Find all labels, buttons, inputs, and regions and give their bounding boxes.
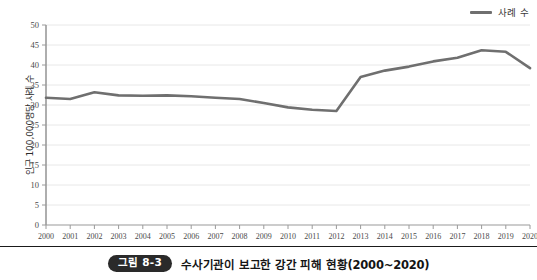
x-axis-tick-label: 2014 <box>377 232 393 241</box>
y-axis-tick-label: 40 <box>31 60 40 70</box>
chart-plot-area: 인구 100,000명당 사례 수 05101520253035404550 2… <box>0 0 537 246</box>
x-axis-tick-label: 2009 <box>256 232 272 241</box>
data-series-group <box>46 50 530 111</box>
y-axis-ticks-group: 05101520253035404550 <box>31 20 47 230</box>
x-axis-tick-label: 2013 <box>353 232 369 241</box>
line-chart-svg: 05101520253035404550 2000200120022003200… <box>0 0 537 246</box>
y-axis-tick-label: 15 <box>31 160 40 170</box>
x-axis-tick-label: 2006 <box>183 232 199 241</box>
y-axis-tick-label: 30 <box>31 100 40 110</box>
y-axis-tick-label: 50 <box>31 20 40 30</box>
data-line-사례 수 <box>46 50 530 111</box>
x-axis-tick-label: 2005 <box>159 232 175 241</box>
y-axis-tick-label: 35 <box>31 80 40 90</box>
figure-number-badge: 그림 8-3 <box>108 255 172 273</box>
x-axis-tick-label: 2020 <box>522 232 537 241</box>
y-axis-tick-label: 10 <box>31 180 40 190</box>
x-axis-tick-label: 2011 <box>304 232 320 241</box>
x-axis-tick-label: 2003 <box>111 232 127 241</box>
figure-caption-text: 수사기관이 보고한 강간 피해 현황(2000~2020) <box>181 256 429 272</box>
y-axis-tick-label: 20 <box>31 140 40 150</box>
x-axis-tick-label: 2007 <box>207 232 223 241</box>
x-axis-tick-label: 2019 <box>498 232 514 241</box>
y-axis-tick-label: 0 <box>35 220 39 230</box>
figure-container: 사례 수 인구 100,000명당 사례 수 05101520253035404… <box>0 0 537 280</box>
x-axis-tick-label: 2012 <box>328 232 344 241</box>
x-axis-tick-label: 2017 <box>449 232 465 241</box>
x-axis-ticks-group: 2000200120022003200420052006200720082009… <box>38 225 537 241</box>
x-axis-tick-label: 2000 <box>38 232 54 241</box>
x-axis-tick-label: 2004 <box>135 232 151 241</box>
y-axis-tick-label: 5 <box>35 200 39 210</box>
y-axis-tick-label: 25 <box>31 120 40 130</box>
x-axis-tick-label: 2001 <box>62 232 78 241</box>
x-axis-tick-label: 2015 <box>401 232 417 241</box>
x-axis-tick-label: 2016 <box>425 232 441 241</box>
y-axis-tick-label: 45 <box>31 40 40 50</box>
figure-caption-bar: 그림 8-3 수사기관이 보고한 강간 피해 현황(2000~2020) <box>0 246 537 280</box>
gridlines-group <box>46 25 530 205</box>
x-axis-tick-label: 2010 <box>280 232 296 241</box>
x-axis-tick-label: 2008 <box>232 232 248 241</box>
x-axis-tick-label: 2002 <box>86 232 102 241</box>
x-axis-tick-label: 2018 <box>474 232 490 241</box>
